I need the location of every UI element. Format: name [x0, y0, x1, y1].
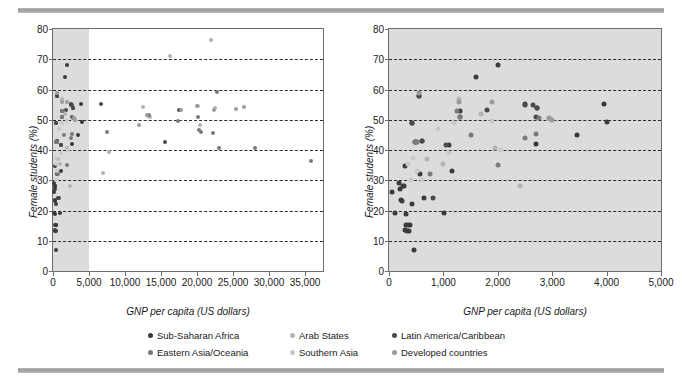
scatter-point: [406, 161, 411, 166]
y-tick-mark: [385, 180, 389, 181]
x-tick-label: 3,000: [540, 277, 565, 288]
chart-panel-right: 0102030405060708001,0002,0003,0004,0005,…: [344, 18, 676, 318]
gridline: [53, 90, 323, 91]
scatter-point: [65, 163, 69, 167]
x-axis-title-right: GNP per capita (US dollars): [388, 306, 662, 317]
scatter-point: [253, 146, 257, 150]
y-tick-mark: [385, 211, 389, 212]
legend-item[interactable]: Arab States: [290, 330, 392, 341]
scatter-point: [163, 140, 167, 144]
scatter-point: [415, 169, 420, 174]
x-tick-label: 1,000: [431, 277, 456, 288]
scatter-point: [212, 108, 216, 112]
y-tick-mark: [49, 241, 53, 242]
y-tick-label: 50: [373, 114, 384, 125]
scatter-point: [60, 115, 64, 119]
legend-item[interactable]: Sub-Saharan Africa: [148, 330, 290, 341]
scatter-point: [73, 118, 77, 122]
scatter-point: [441, 161, 446, 166]
scatter-point: [517, 184, 522, 189]
scatter-point: [62, 133, 66, 137]
scatter-point: [65, 100, 69, 104]
chart-panel-left: 0102030405060708005,00010,00015,00020,00…: [6, 18, 338, 318]
legend-item[interactable]: Developed countries: [392, 347, 552, 358]
scatter-point: [533, 132, 538, 137]
y-tick-label: 10: [373, 235, 384, 246]
x-tick-mark: [89, 271, 90, 276]
x-tick-mark: [233, 271, 234, 276]
scatter-point: [53, 212, 57, 216]
x-tick-mark: [53, 271, 54, 276]
x-axis-title-left: GNP per capita (US dollars): [52, 306, 324, 317]
scatter-point: [406, 229, 411, 234]
scatter-point: [403, 211, 408, 216]
gridline: [389, 90, 661, 91]
scatter-point: [390, 189, 395, 194]
plot-area-right: 0102030405060708001,0002,0003,0004,0005,…: [388, 28, 662, 272]
legend-marker-icon: [392, 333, 397, 338]
y-tick-mark: [385, 59, 389, 60]
scatter-point: [179, 108, 183, 112]
x-tick-mark: [607, 271, 608, 276]
gridline: [389, 59, 661, 60]
scatter-point: [408, 178, 413, 183]
scatter-point: [195, 104, 199, 108]
y-tick-mark: [49, 29, 53, 30]
scatter-point: [474, 74, 479, 79]
x-tick-label: 4,000: [594, 277, 619, 288]
x-tick-label: 35,000: [290, 277, 321, 288]
scatter-point: [57, 196, 61, 200]
scatter-point: [79, 102, 83, 106]
y-tick-label: 60: [37, 84, 48, 95]
scatter-point: [199, 130, 203, 134]
legend-label: Developed countries: [401, 347, 488, 358]
scatter-point: [64, 108, 68, 112]
scatter-point: [217, 146, 221, 150]
scatter-point: [419, 178, 424, 183]
scatter-point: [69, 136, 73, 140]
scatter-point: [76, 133, 80, 137]
scatter-point: [215, 90, 219, 94]
legend-marker-icon: [392, 350, 397, 355]
scatter-point: [495, 62, 500, 67]
scatter-point: [55, 91, 59, 95]
scatter-point: [211, 131, 215, 135]
scatter-point: [57, 127, 61, 131]
scatter-point: [490, 99, 495, 104]
legend-item[interactable]: Southern Asia: [290, 347, 392, 358]
legend-item[interactable]: Latin America/Caribbean: [392, 330, 552, 341]
y-tick-label: 10: [37, 235, 48, 246]
scatter-point: [242, 105, 246, 109]
scatter-point: [411, 155, 416, 160]
legend-label: Southern Asia: [299, 347, 358, 358]
scatter-point: [55, 178, 59, 182]
scatter-point: [141, 105, 145, 109]
y-tick-label: 70: [37, 54, 48, 65]
x-tick-label: 10,000: [110, 277, 141, 288]
scatter-point: [495, 162, 500, 167]
scatter-point: [449, 169, 454, 174]
legend-marker-icon: [290, 333, 295, 338]
scatter-point: [234, 107, 238, 111]
y-tick-label: 50: [37, 114, 48, 125]
y-tick-label: 70: [373, 54, 384, 65]
scatter-point: [101, 171, 105, 175]
scatter-point: [523, 135, 528, 140]
scatter-point: [425, 157, 430, 162]
scatter-point: [137, 123, 141, 127]
x-tick-label: 25,000: [218, 277, 249, 288]
scatter-point: [58, 162, 62, 166]
scatter-point: [53, 184, 57, 188]
scatter-point: [601, 102, 606, 107]
scatter-point: [574, 132, 579, 137]
y-tick-label: 80: [373, 24, 384, 35]
legend-item[interactable]: Eastern Asia/Oceania: [148, 347, 290, 358]
y-tick-label: 0: [42, 266, 48, 277]
legend-label: Arab States: [299, 330, 349, 341]
scatter-point: [59, 143, 63, 147]
scatter-point: [55, 140, 59, 144]
gridline: [389, 150, 661, 151]
legend-label: Latin America/Caribbean: [401, 330, 505, 341]
scatter-point: [446, 151, 451, 156]
scatter-point: [80, 120, 84, 124]
